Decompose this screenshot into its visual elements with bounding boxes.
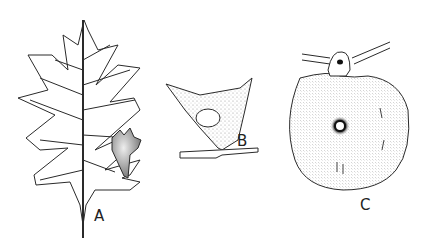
leaf-gall bbox=[112, 128, 141, 178]
panel-label-a: A bbox=[94, 209, 104, 224]
panel-label-c: C bbox=[360, 198, 370, 213]
leaf-a bbox=[18, 20, 140, 238]
botanical-illustration: A B C bbox=[0, 0, 424, 249]
panel-label-b: B bbox=[237, 134, 247, 149]
gall-c bbox=[290, 42, 409, 190]
